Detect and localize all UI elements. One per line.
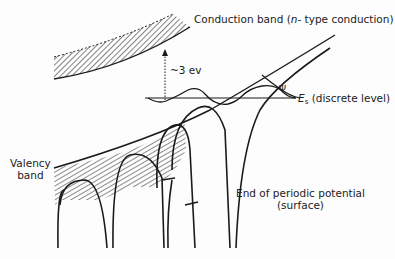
psi-label: Ψ: [279, 83, 286, 95]
energy-gap-arrow: [162, 49, 168, 100]
periodic-potential-wells: [58, 48, 330, 248]
conduction-band-label: Conduction band (n- type conduction): [194, 13, 394, 25]
energy-gap-label: ~3 ev: [170, 64, 202, 76]
wavefunction-curve: [148, 86, 296, 105]
discrete-level-label: Es (discrete level): [298, 92, 390, 108]
surface-label: End of periodic potential (surface): [236, 187, 365, 211]
surface-state-diagram: [0, 0, 395, 259]
valency-band-label: Valency band: [10, 157, 51, 181]
